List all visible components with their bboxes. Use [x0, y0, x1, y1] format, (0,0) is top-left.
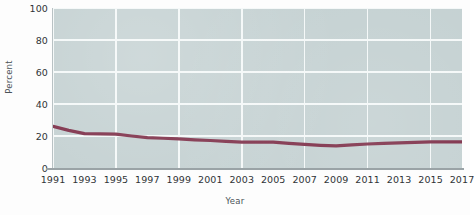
x-tick-label: 2017: [450, 174, 474, 185]
y-tick-label: 100: [22, 3, 48, 14]
x-axis-title: Year: [0, 196, 470, 206]
plot-area: [53, 8, 462, 168]
x-tick-label: 2011: [355, 174, 380, 185]
series-line: [53, 126, 462, 146]
y-tick-label: 0: [22, 163, 48, 174]
y-axis-title: Percent: [4, 47, 14, 107]
x-tick-label: 1991: [41, 174, 66, 185]
x-tick-label: 1995: [104, 174, 129, 185]
x-tick-label: 2001: [198, 174, 223, 185]
x-tick-label: 2005: [261, 174, 286, 185]
y-tick-label: 40: [22, 99, 48, 110]
x-tick-label: 1993: [72, 174, 97, 185]
y-tick-label: 60: [22, 67, 48, 78]
x-tick-label: 2003: [229, 174, 254, 185]
x-tick-label: 2009: [324, 174, 349, 185]
y-tick-label: 20: [22, 131, 48, 142]
data-line-series: [53, 8, 462, 168]
y-axis-line: [52, 8, 53, 169]
x-tick-label: 1999: [167, 174, 192, 185]
x-tick-label: 1997: [135, 174, 160, 185]
y-tick-label: 80: [22, 35, 48, 46]
x-tick-label: 2013: [387, 174, 412, 185]
x-tick-label: 2015: [418, 174, 443, 185]
x-axis-line: [46, 168, 464, 170]
x-tick-label: 2007: [292, 174, 317, 185]
